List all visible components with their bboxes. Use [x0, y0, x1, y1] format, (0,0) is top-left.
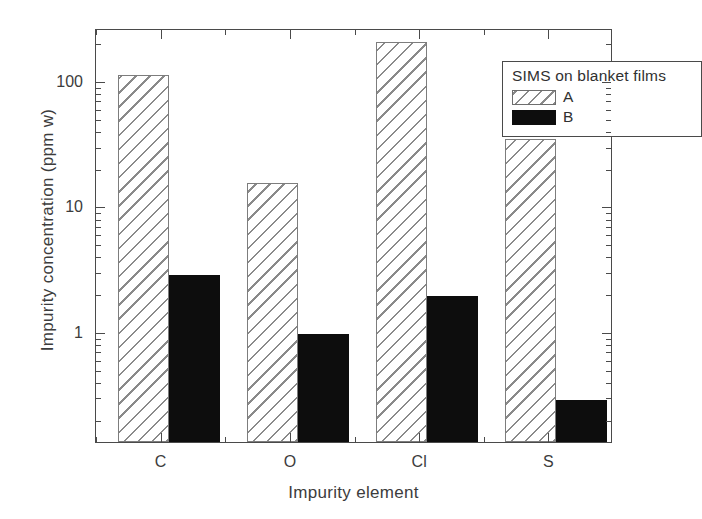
y-tick	[606, 352, 611, 353]
y-tick	[606, 132, 611, 133]
y-tick	[606, 295, 611, 296]
y-tick	[96, 339, 101, 340]
x-tick	[161, 433, 162, 442]
y-tick	[606, 345, 611, 346]
x-tick	[419, 433, 420, 442]
y-tick	[96, 88, 101, 89]
x-tick-minor	[355, 30, 356, 35]
y-tick	[96, 361, 101, 362]
y-tick	[606, 245, 611, 246]
y-tick	[606, 383, 611, 384]
y-tick	[96, 295, 101, 296]
x-tick-label-s: S	[543, 453, 554, 471]
x-tick	[290, 30, 291, 39]
x-tick-label-c: C	[155, 453, 167, 471]
x-tick-label-cl: Cl	[412, 453, 427, 471]
y-tick	[606, 421, 611, 422]
y-tick	[96, 345, 101, 346]
y-tick	[96, 352, 101, 353]
y-tick	[96, 94, 101, 95]
x-tick-minor	[96, 30, 97, 35]
y-tick	[96, 101, 101, 102]
y-tick	[606, 94, 611, 95]
y-tick	[96, 235, 101, 236]
y-tick	[96, 333, 105, 334]
y-tick	[96, 220, 101, 221]
x-tick-minor	[355, 437, 356, 442]
chart-legend: SIMS on blanket films A B	[502, 61, 702, 137]
y-tick	[606, 88, 611, 89]
y-tick	[606, 120, 611, 121]
y-tick	[96, 227, 101, 228]
bar-c-a	[118, 75, 169, 442]
plot-area: SIMS on blanket films A B 100101COClS	[95, 29, 612, 443]
x-tick	[161, 30, 162, 39]
y-axis-title: Impurity concentration (ppm w)	[38, 30, 58, 430]
y-tick	[606, 170, 611, 171]
y-tick	[96, 273, 101, 274]
y-tick	[606, 148, 611, 149]
y-tick	[96, 44, 101, 45]
y-tick	[606, 361, 611, 362]
bar-c-b	[169, 275, 220, 442]
x-tick-label-o: O	[284, 453, 296, 471]
y-tick	[606, 44, 611, 45]
x-tick	[548, 433, 549, 442]
y-tick	[602, 207, 611, 208]
y-tick-label: 10	[65, 198, 83, 216]
y-tick	[96, 257, 101, 258]
legend-label-a: A	[563, 88, 573, 106]
y-tick	[606, 227, 611, 228]
x-tick-minor	[484, 437, 485, 442]
y-tick	[96, 421, 101, 422]
legend-swatch-hatched-icon	[512, 90, 556, 105]
x-axis-title: Impurity element	[95, 483, 612, 503]
y-tick	[96, 170, 101, 171]
y-tick	[96, 110, 101, 111]
bar-s-b	[556, 400, 607, 442]
y-tick	[602, 82, 611, 83]
y-tick	[96, 213, 101, 214]
bar-o-a	[247, 183, 298, 442]
y-tick	[96, 207, 105, 208]
legend-entry-a[interactable]: A	[512, 88, 701, 106]
bar-s-a	[505, 139, 556, 442]
y-tick	[606, 398, 611, 399]
y-tick	[96, 132, 101, 133]
y-tick	[606, 101, 611, 102]
y-tick	[606, 273, 611, 274]
x-tick-minor	[225, 437, 226, 442]
y-tick	[606, 235, 611, 236]
y-tick	[96, 148, 101, 149]
x-tick-minor	[96, 437, 97, 442]
y-tick	[96, 398, 101, 399]
legend-swatch-solid-icon	[512, 110, 556, 125]
bar-cl-b	[427, 296, 478, 442]
y-tick	[606, 371, 611, 372]
x-tick-minor	[484, 30, 485, 35]
y-tick	[602, 333, 611, 334]
y-tick-label: 1	[74, 324, 83, 342]
x-tick	[290, 433, 291, 442]
x-tick	[419, 30, 420, 39]
y-tick	[606, 110, 611, 111]
y-tick-label: 100	[56, 73, 83, 91]
y-tick	[606, 213, 611, 214]
bar-o-b	[298, 334, 349, 442]
x-tick-minor	[225, 30, 226, 35]
y-tick	[96, 371, 101, 372]
y-tick	[606, 257, 611, 258]
y-tick	[606, 220, 611, 221]
y-tick	[606, 339, 611, 340]
x-tick	[548, 30, 549, 39]
y-tick	[96, 245, 101, 246]
legend-label-b: B	[563, 108, 573, 126]
y-tick	[96, 383, 101, 384]
bar-cl-a	[376, 42, 427, 442]
y-tick	[96, 82, 105, 83]
y-tick	[96, 120, 101, 121]
